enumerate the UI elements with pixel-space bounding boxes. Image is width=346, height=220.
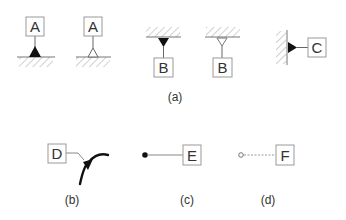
- label-a: A: [88, 18, 98, 35]
- hatched-surface: [146, 27, 180, 37]
- symbol-b-open: B: [205, 27, 240, 77]
- diagram-canvas: A A B B C (a): [0, 0, 346, 220]
- filled-triangle-icon: [158, 38, 169, 47]
- caption-c: (c): [180, 193, 194, 207]
- open-triangle-icon: [217, 38, 227, 46]
- hatched-surface: [19, 57, 53, 67]
- hatched-surface: [276, 31, 286, 64]
- label-c: C: [312, 39, 323, 56]
- curved-weld-line: [80, 154, 108, 184]
- open-triangle-icon: [88, 48, 98, 57]
- caption-a: (a): [168, 90, 183, 104]
- filled-dot-icon: [142, 152, 148, 158]
- label-b: B: [217, 59, 227, 76]
- label-e: E: [187, 147, 197, 164]
- caption-b: (b): [65, 193, 80, 207]
- label-f: F: [280, 147, 289, 164]
- symbol-b-filled: B: [146, 27, 181, 77]
- symbol-f-circle: F: [239, 145, 294, 165]
- hatched-surface: [76, 57, 110, 67]
- symbol-e-dot: E: [142, 145, 201, 165]
- caption-d: (d): [261, 193, 276, 207]
- hatched-surface: [206, 27, 240, 37]
- label-b: B: [158, 59, 168, 76]
- label-a: A: [30, 18, 40, 35]
- label-d: D: [52, 145, 63, 162]
- filled-triangle-icon: [288, 42, 297, 53]
- filled-triangle-icon: [29, 46, 41, 57]
- leader-line: [66, 153, 84, 160]
- symbol-d-curve: D: [48, 144, 108, 184]
- symbol-a-filled: A: [17, 17, 55, 67]
- symbol-c-filled: C: [276, 30, 326, 65]
- symbol-a-open: A: [76, 17, 111, 67]
- open-circle-icon: [239, 153, 244, 158]
